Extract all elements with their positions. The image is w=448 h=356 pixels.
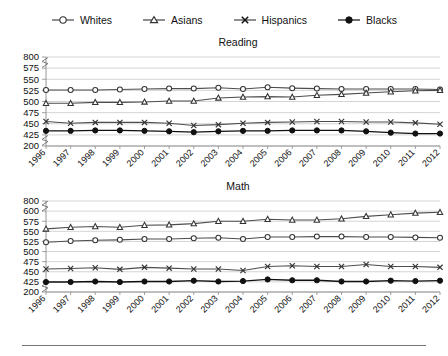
chart-reading-svg: 2004254504755005255505758001996199719981… xyxy=(0,49,448,184)
data-point-asians xyxy=(265,94,270,99)
y-axis-tick-label: 550 xyxy=(23,226,39,237)
data-point-blacks xyxy=(339,279,344,284)
data-point-whites xyxy=(167,237,172,242)
chart-page: Whites Asians Hispanics Blacks xyxy=(0,0,448,356)
y-axis-tick-label: 475 xyxy=(23,107,39,118)
data-point-whites xyxy=(339,234,344,239)
y-axis-tick-label: 500 xyxy=(23,96,39,107)
y-axis-tick-label: 425 xyxy=(23,276,39,287)
data-point-blacks xyxy=(437,131,442,136)
x-cross-icon xyxy=(233,14,257,26)
circle-open-icon xyxy=(51,14,75,26)
data-point-blacks xyxy=(314,278,319,283)
data-point-blacks xyxy=(413,278,418,283)
data-point-blacks xyxy=(117,128,122,133)
data-point-whites xyxy=(142,87,147,92)
x-axis-tick-label: 2002 xyxy=(174,293,195,314)
data-point-blacks xyxy=(364,279,369,284)
data-point-blacks xyxy=(290,278,295,283)
data-point-blacks xyxy=(314,128,319,133)
legend-item-asians: Asians xyxy=(142,14,203,26)
data-point-whites xyxy=(167,86,172,91)
data-point-asians xyxy=(93,99,98,104)
data-point-blacks xyxy=(167,279,172,284)
data-point-asians xyxy=(314,92,319,97)
data-point-whites xyxy=(241,237,246,242)
data-point-asians xyxy=(240,218,245,223)
data-point-whites xyxy=(191,236,196,241)
circle-filled-icon xyxy=(337,14,361,26)
data-point-asians xyxy=(166,98,171,103)
data-point-whites xyxy=(388,234,393,239)
footer-divider xyxy=(22,345,426,346)
x-axis-tick-label: 2008 xyxy=(322,293,343,314)
x-axis-tick-label: 2010 xyxy=(371,147,392,168)
x-axis-tick-label: 2007 xyxy=(297,147,318,168)
data-point-whites xyxy=(68,87,73,92)
chart-math-title: Math xyxy=(0,180,448,192)
data-point-blacks xyxy=(388,278,393,283)
data-point-whites xyxy=(265,85,270,90)
y-axis-tick-label: 525 xyxy=(23,85,39,96)
y-axis-tick-label: 450 xyxy=(23,118,39,129)
data-point-asians xyxy=(216,95,221,100)
data-point-whites xyxy=(117,237,122,242)
data-point-blacks xyxy=(216,129,221,134)
data-point-blacks xyxy=(93,128,98,133)
data-point-asians xyxy=(117,224,122,229)
legend-label-asians: Asians xyxy=(171,14,203,26)
y-axis-tick-label: 500 xyxy=(23,246,39,257)
data-point-blacks xyxy=(43,279,48,284)
data-point-asians xyxy=(265,216,270,221)
x-axis-tick-label: 2002 xyxy=(174,147,195,168)
x-axis-tick-label: 1998 xyxy=(75,147,96,168)
data-point-asians xyxy=(93,224,98,229)
data-point-blacks xyxy=(216,279,221,284)
data-point-whites xyxy=(265,234,270,239)
data-point-whites xyxy=(314,86,319,91)
y-axis-tick-label: 475 xyxy=(23,256,39,267)
data-point-blacks xyxy=(142,128,147,133)
x-axis-tick-label: 2007 xyxy=(297,293,318,314)
x-axis-tick-label: 2011 xyxy=(396,147,417,168)
x-axis-tick-label: 2004 xyxy=(223,147,244,168)
data-point-asians xyxy=(290,217,295,222)
data-point-whites xyxy=(216,235,221,240)
series-line-hispanics xyxy=(46,265,440,271)
data-point-asians xyxy=(142,99,147,104)
y-axis-tick-label: 450 xyxy=(23,266,39,277)
x-axis-tick-label: 1998 xyxy=(75,293,96,314)
legend-label-blacks: Blacks xyxy=(366,14,397,26)
x-axis-tick-label: 2011 xyxy=(396,293,417,314)
x-axis-tick-label: 2012 xyxy=(420,293,441,314)
y-axis-tick-label: 575 xyxy=(23,216,39,227)
data-point-blacks xyxy=(68,128,73,133)
chart-math-svg: 2004254504755005255505756008001996199719… xyxy=(0,193,448,330)
data-point-asians xyxy=(191,98,196,103)
y-axis-tick-label: 800 xyxy=(23,195,39,206)
y-axis-tick-label: 800 xyxy=(23,51,39,62)
legend-label-hispanics: Hispanics xyxy=(262,14,308,26)
data-point-asians xyxy=(339,91,344,96)
data-point-whites xyxy=(191,86,196,91)
data-point-whites xyxy=(216,85,221,90)
data-point-blacks xyxy=(437,278,442,283)
x-axis-tick-label: 2001 xyxy=(149,147,170,168)
data-point-whites xyxy=(93,238,98,243)
data-point-asians xyxy=(68,224,73,229)
x-axis-tick-label: 2006 xyxy=(272,293,293,314)
data-point-asians xyxy=(240,94,245,99)
data-point-whites xyxy=(142,237,147,242)
data-point-blacks xyxy=(167,129,172,134)
data-point-blacks xyxy=(240,278,245,283)
chart-legend: Whites Asians Hispanics Blacks xyxy=(0,14,448,26)
y-axis-tick-label: 575 xyxy=(23,62,39,73)
data-point-asians xyxy=(363,213,368,218)
data-point-blacks xyxy=(290,128,295,133)
x-axis-tick-label: 2004 xyxy=(223,293,244,314)
y-axis-tick-label: 200 xyxy=(23,140,39,151)
data-point-whites xyxy=(413,235,418,240)
data-point-asians xyxy=(437,209,442,214)
data-point-whites xyxy=(314,234,319,239)
legend-item-hispanics: Hispanics xyxy=(233,14,308,26)
